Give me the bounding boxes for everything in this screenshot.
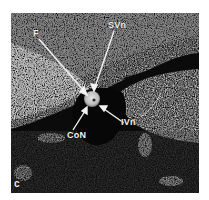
ultrasound-image: F SVn CoN IVn c	[11, 13, 199, 193]
label-svn: SVn	[108, 21, 126, 30]
panel-letter: c	[14, 179, 20, 189]
label-f: F	[33, 29, 39, 38]
label-ivn: IVn	[121, 118, 136, 127]
label-con: CoN	[67, 131, 86, 140]
tissue-rendering	[11, 13, 199, 193]
